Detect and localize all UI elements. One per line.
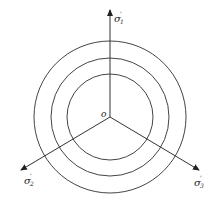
origin-label: o — [101, 109, 107, 119]
svg-text:2: 2 — [29, 180, 34, 187]
svg-text:': ' — [120, 10, 122, 17]
svg-text:': ' — [30, 172, 32, 179]
deviatoric-plane-diagram: o σ ' 1 σ ' 2 σ ' 3 — [0, 0, 215, 203]
sigma3-label: σ ' 3 — [194, 174, 204, 189]
svg-text:1: 1 — [120, 18, 124, 25]
sigma1-label: σ ' 1 — [114, 10, 124, 25]
svg-text:3: 3 — [200, 182, 204, 189]
sigma2-label: σ ' 2 — [24, 172, 34, 187]
axes — [21, 10, 199, 170]
svg-text:': ' — [200, 174, 202, 181]
